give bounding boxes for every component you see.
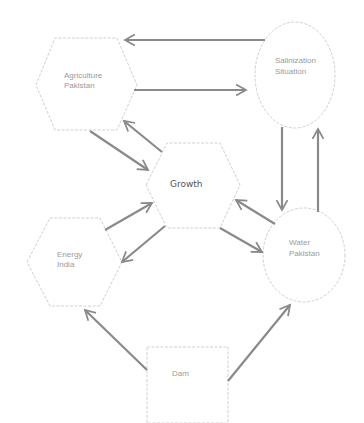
edge-growth-to-agriculture [124, 121, 162, 152]
water-label-line2: Pakistan [289, 249, 320, 258]
node-agriculture[interactable]: Agriculture Pakistan [36, 38, 137, 130]
edge-water-to-growth [236, 200, 275, 224]
salinization-label-line1: Salinization [275, 56, 316, 65]
diagram-canvas: Agriculture Pakistan Salinization Situat… [0, 0, 364, 423]
dam-rectangle [147, 347, 228, 423]
salinization-label-line2: Situation [275, 67, 306, 76]
edge-energy-to-growth [105, 203, 152, 230]
energy-hexagon [27, 218, 122, 306]
water-label-line1: Water [289, 238, 310, 247]
node-energy[interactable]: Energy India [27, 218, 122, 306]
agriculture-label-line1: Agriculture [64, 71, 103, 80]
edge-agriculture-to-growth [90, 131, 148, 170]
edge-dam-to-water [228, 305, 290, 381]
energy-label-line1: Energy [57, 250, 82, 259]
agriculture-label-line2: Pakistan [64, 81, 95, 90]
node-salinization[interactable]: Salinization Situation [255, 22, 335, 128]
edge-growth-to-energy [122, 226, 165, 262]
node-water[interactable]: Water Pakistan [263, 208, 345, 302]
edge-dam-to-energy [85, 310, 147, 370]
node-growth[interactable]: Growth [146, 143, 240, 228]
growth-label: Growth [170, 179, 203, 189]
edge-growth-to-water [220, 228, 262, 252]
node-dam[interactable]: Dam [147, 347, 228, 423]
energy-label-line2: India [57, 260, 75, 269]
dam-label: Dam [172, 369, 189, 378]
